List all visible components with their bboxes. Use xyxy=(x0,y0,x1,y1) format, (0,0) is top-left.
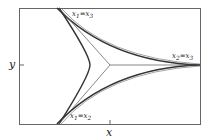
inner-lines-left xyxy=(59,8,110,124)
y-axis-label: y xyxy=(9,59,15,70)
x-axis-label: x xyxy=(106,127,112,138)
label-x1-eq-x3: x1=x3 xyxy=(72,11,93,20)
label-x1-eq-x2: x1=x2 xyxy=(70,113,91,122)
cusp-diagram xyxy=(0,0,210,140)
label-x2-eq-x3: x2=x3 xyxy=(172,53,193,62)
